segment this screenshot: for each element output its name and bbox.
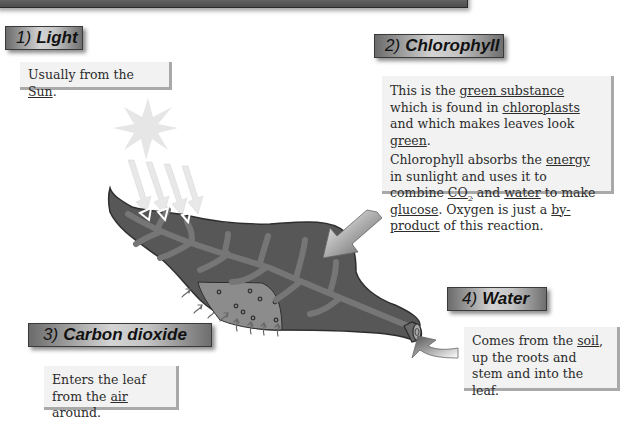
heading-number: 2) [385,36,400,56]
heading-number: 3) [43,325,58,345]
term-glucose: glucose [390,202,438,217]
light-rays-icon [128,160,203,216]
heading-title: Water [482,289,529,309]
carbon-dioxide-description: Enters the leaf from the air around. [44,366,179,410]
term-water: water [504,185,541,200]
heading-water: 4) Water [447,287,547,311]
heading-title: Carbon dioxide [63,325,187,345]
term-energy: energy [546,152,590,167]
chlorophyll-paragraph-2: Chlorophyll absorbs the energy in sunlig… [390,152,603,235]
leaf-icon [109,188,422,342]
term-green-substance: green substance [460,83,565,98]
term-co2: CO2 [448,185,473,200]
heading-chlorophyll: 2) Chlorophyll [374,34,504,58]
heading-carbon-dioxide: 3) Carbon dioxide [28,323,212,347]
term-sun: Sun [28,84,53,99]
term-green: green [390,133,427,148]
chlorophyll-description: This is the green substance which is fou… [382,76,614,194]
light-description: Usually from the Sun. [20,62,172,90]
chlorophyll-arrow-icon [323,210,382,258]
heading-light: 1) Light [5,26,83,50]
term-soil: soil [577,333,599,348]
chlorophyll-paragraph-1: This is the green substance which is fou… [390,83,603,149]
water-description: Comes from the soil, up the roots and st… [464,327,620,391]
term-chloroplasts: chloroplasts [502,100,579,115]
heading-title: Chlorophyll [405,36,499,56]
sun-icon [113,98,178,160]
heading-number: 1) [16,28,31,48]
term-air: air [110,389,127,404]
heading-number: 4) [462,289,477,309]
heading-title: Light [36,28,78,48]
water-arrow-icon [412,336,458,358]
